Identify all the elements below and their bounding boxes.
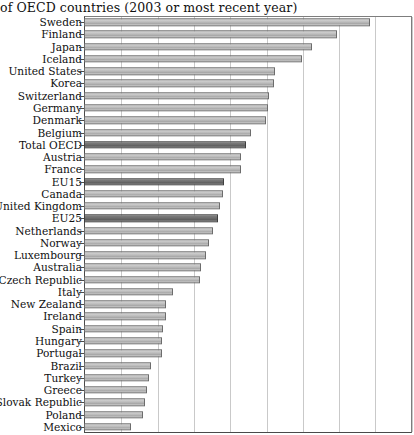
- bar: [84, 67, 275, 74]
- bar-row: Korea: [0, 77, 414, 89]
- bar: [84, 386, 147, 393]
- category-label: United Kingdom: [0, 201, 82, 212]
- category-label: Japan: [52, 41, 82, 52]
- bar: [84, 313, 166, 320]
- bar-row: Austria: [0, 151, 414, 163]
- category-label: Canada: [41, 188, 82, 199]
- bar-row: EU15: [0, 175, 414, 187]
- bar: [84, 55, 302, 62]
- category-label: Iceland: [42, 53, 82, 64]
- bar: [84, 202, 220, 209]
- bar: [84, 215, 218, 222]
- bar-row: EU25: [0, 212, 414, 224]
- bar: [84, 92, 269, 99]
- category-label: Finland: [41, 29, 82, 40]
- bar-row: Mexico: [0, 421, 414, 433]
- bar-row: Spain: [0, 323, 414, 335]
- plot-wrapper: SwedenFinlandJapanIcelandUnited StatesKo…: [0, 16, 414, 435]
- bar-row: Luxembourg: [0, 249, 414, 261]
- bar-row: France: [0, 163, 414, 175]
- bar: [84, 325, 163, 332]
- category-label: Netherlands: [15, 225, 82, 236]
- bar-row: Italy: [0, 286, 414, 298]
- bar-row: Sweden: [0, 16, 414, 28]
- bar-row: Canada: [0, 188, 414, 200]
- bar: [84, 251, 206, 258]
- category-label: Greece: [44, 385, 82, 396]
- category-label: Belgium: [38, 127, 82, 138]
- category-label: EU25: [52, 213, 82, 224]
- bar: [84, 411, 143, 418]
- bar: [84, 190, 223, 197]
- category-label: Norway: [40, 237, 82, 248]
- bar-row: Switzerland: [0, 90, 414, 102]
- bar-row: United States: [0, 65, 414, 77]
- bar: [84, 350, 162, 357]
- category-label: Korea: [50, 78, 82, 89]
- bar: [84, 153, 241, 160]
- category-label: Sweden: [40, 17, 82, 28]
- bar: [84, 301, 166, 308]
- category-label: Slovak Republic: [0, 397, 82, 408]
- bar-row: Finland: [0, 28, 414, 40]
- bar-row: Ireland: [0, 310, 414, 322]
- bar: [84, 276, 200, 283]
- category-label: Mexico: [43, 421, 82, 432]
- category-label: Australia: [33, 262, 82, 273]
- bar-row: Belgium: [0, 126, 414, 138]
- bar-row: Norway: [0, 237, 414, 249]
- bar: [84, 166, 241, 173]
- category-label: New Zealand: [11, 299, 82, 310]
- category-label: Germany: [33, 102, 82, 113]
- category-label: Turkey: [44, 372, 82, 383]
- bar: [84, 178, 224, 185]
- bar-row: United Kingdom: [0, 200, 414, 212]
- bar: [84, 362, 151, 369]
- bar-row: Total OECD: [0, 139, 414, 151]
- chart-title: of OECD countries (2003 or most recent y…: [0, 0, 414, 16]
- bar: [84, 288, 173, 295]
- category-label: Portugal: [36, 348, 82, 359]
- bar: [84, 337, 162, 344]
- bar-row: Greece: [0, 384, 414, 396]
- bar-rows: SwedenFinlandJapanIcelandUnited StatesKo…: [0, 16, 414, 433]
- bar-row: Germany: [0, 102, 414, 114]
- bar: [84, 264, 201, 271]
- category-label: Ireland: [43, 311, 82, 322]
- bar-row: Czech Republic: [0, 274, 414, 286]
- bar: [84, 374, 149, 381]
- category-label: France: [44, 164, 82, 175]
- bar-row: Iceland: [0, 53, 414, 65]
- category-label: Total OECD: [19, 139, 82, 150]
- bar: [84, 104, 268, 111]
- category-label: Austria: [43, 152, 82, 163]
- bar: [84, 18, 370, 25]
- category-label: EU15: [52, 176, 82, 187]
- bar: [84, 31, 337, 38]
- bar-row: Australia: [0, 261, 414, 273]
- bar: [84, 43, 312, 50]
- bar-row: Poland: [0, 408, 414, 420]
- bar-row: Hungary: [0, 335, 414, 347]
- bar: [84, 141, 246, 148]
- category-label: Brazil: [50, 360, 82, 371]
- category-label: Switzerland: [18, 90, 82, 101]
- category-label: Poland: [46, 409, 82, 420]
- bar-row: Portugal: [0, 347, 414, 359]
- category-label: Czech Republic: [0, 274, 82, 285]
- category-label: Hungary: [35, 336, 82, 347]
- bar-row: New Zealand: [0, 298, 414, 310]
- category-label: Denmark: [33, 115, 82, 126]
- bar: [84, 117, 266, 124]
- category-label: Spain: [51, 323, 82, 334]
- bar-row: Japan: [0, 41, 414, 53]
- category-label: Luxembourg: [14, 250, 82, 261]
- bar: [84, 129, 251, 136]
- bar-row: Netherlands: [0, 225, 414, 237]
- bar: [84, 80, 274, 87]
- bar: [84, 227, 213, 234]
- bar-row: Denmark: [0, 114, 414, 126]
- bar-row: Turkey: [0, 372, 414, 384]
- category-label: United States: [8, 66, 82, 77]
- bar-row: Slovak Republic: [0, 396, 414, 408]
